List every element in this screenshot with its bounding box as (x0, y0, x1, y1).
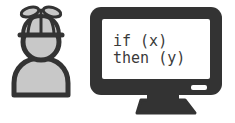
illustration-scene: if (x) then (y) (0, 0, 235, 123)
code-line-2: then (y) (113, 49, 185, 67)
scene-svg: if (x) then (y) (0, 0, 235, 123)
power-led-icon (191, 85, 207, 90)
code-line-1: if (x) (113, 32, 167, 50)
torso (14, 58, 68, 95)
